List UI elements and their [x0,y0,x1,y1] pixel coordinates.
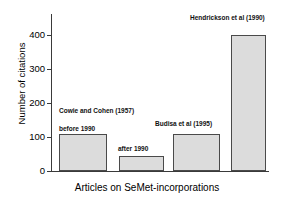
y-tick-label: 400 [29,30,45,40]
bar-budisa-1995 [173,134,220,171]
bar-after-1990 [119,156,164,171]
y-axis-line [51,14,52,172]
y-tick-label: 200 [29,98,45,108]
y-tick-mark [47,35,51,36]
y-tick-mark [47,171,51,172]
y-tick-label: 300 [29,64,45,74]
plot-area: 0 100 200 300 400 [51,14,269,172]
x-axis-title: Articles on SeMet-incorporations [0,182,294,193]
bar-hendrickson-1990 [231,35,266,171]
annotation-hendrickson: Hendrickson et al (1990) [190,15,265,22]
y-tick-label: 0 [40,166,45,176]
bar-before-1990 [59,134,107,171]
x-axis-line [51,171,269,172]
y-tick-mark [47,69,51,70]
y-axis-title: Number of citations [16,14,27,154]
annotation-cowie-and-cohen: Cowie and Cohen (1957) [59,108,134,115]
annotation-after-1990: after 1990 [118,146,148,153]
annotation-budisa: Budisa et al (1995) [155,121,212,128]
y-tick-mark [47,137,51,138]
annotation-before-1990: before 1990 [59,126,95,133]
y-tick-label: 100 [29,132,45,142]
bar-chart-figure: Number of citations 0 100 200 300 400 Co… [0,0,294,203]
y-tick-mark [47,103,51,104]
